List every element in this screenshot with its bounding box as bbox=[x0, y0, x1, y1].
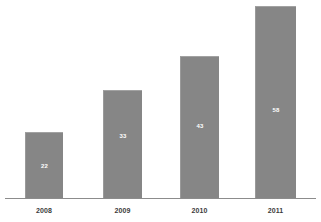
x-axis-label-2008: 2008 bbox=[25, 207, 63, 214]
bar-value-label: 22 bbox=[26, 163, 63, 169]
bar-value-label: 58 bbox=[256, 107, 296, 113]
bar-2008[interactable]: 22 bbox=[25, 132, 63, 198]
bar-value-label: 33 bbox=[104, 133, 142, 139]
x-axis-labels: 2008 2009 2010 2011 bbox=[0, 203, 321, 222]
x-axis-label-2010: 2010 bbox=[180, 207, 219, 214]
x-axis-line bbox=[5, 198, 316, 199]
bar-2011[interactable]: 58 bbox=[255, 6, 296, 198]
bar-value-label: 43 bbox=[181, 123, 219, 129]
bar-2009[interactable]: 33 bbox=[103, 90, 142, 198]
plot-area: 22 33 43 58 bbox=[0, 0, 321, 198]
bar-chart: 22 33 43 58 2008 2009 2010 2011 bbox=[0, 0, 321, 222]
x-axis-label-2009: 2009 bbox=[103, 207, 142, 214]
x-axis-label-2011: 2011 bbox=[255, 207, 296, 214]
bar-2010[interactable]: 43 bbox=[180, 56, 219, 198]
